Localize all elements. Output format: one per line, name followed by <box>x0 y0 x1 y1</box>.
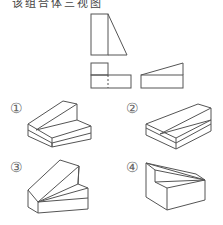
top-view <box>91 63 131 88</box>
option-label-2: ② <box>126 101 139 115</box>
front-view <box>91 14 127 55</box>
option-3-solid <box>28 160 88 213</box>
option-label-3: ③ <box>10 160 23 174</box>
option-label-1: ① <box>10 101 23 115</box>
option-label-4: ④ <box>126 160 139 174</box>
option-2-solid <box>146 104 211 149</box>
option-1-solid <box>28 101 91 147</box>
geometry-figure <box>0 0 223 225</box>
option-4-solid <box>146 163 205 210</box>
side-view <box>141 63 183 88</box>
